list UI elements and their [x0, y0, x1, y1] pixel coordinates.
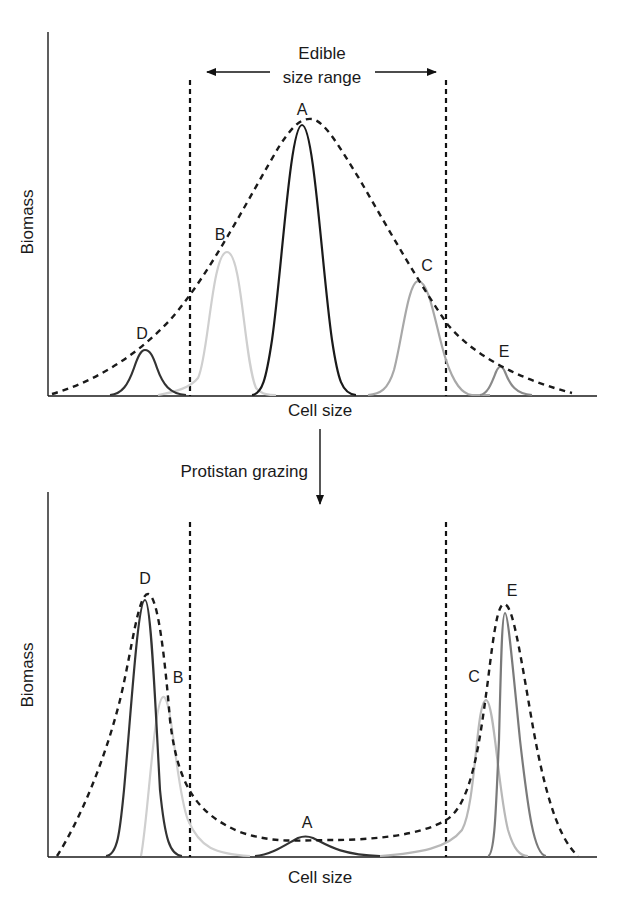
grazing-diagram: Biomass Cell size Edible size range A B … [0, 0, 622, 908]
bottom-x-axis-label: Cell size [288, 868, 352, 887]
bottom-peak-label-e: E [507, 582, 518, 599]
top-curve-d [110, 350, 186, 395]
bottom-peak-label-d: D [139, 570, 151, 587]
bottom-panel: Biomass Cell size D B A C E [18, 492, 597, 887]
transition: Protistan grazing [180, 429, 320, 504]
edible-range-label-line2: size range [283, 68, 361, 87]
bottom-peak-label-c: C [468, 668, 480, 685]
bottom-peak-label-a: A [302, 814, 313, 831]
top-peak-label-a: A [297, 101, 308, 118]
top-peak-label-c: C [421, 257, 433, 274]
top-peak-label-d: D [136, 325, 148, 342]
top-peak-label-e: E [499, 343, 510, 360]
bottom-peak-label-b: B [173, 669, 184, 686]
protistan-grazing-label: Protistan grazing [180, 462, 308, 481]
bottom-y-axis-label: Biomass [18, 642, 37, 707]
bottom-curve-c [380, 700, 528, 856]
top-curve-b [158, 252, 276, 395]
top-peak-label-b: B [215, 226, 226, 243]
bottom-curve-e [488, 613, 546, 856]
top-x-axis-label: Cell size [288, 401, 352, 420]
top-curve-e [480, 367, 532, 395]
edible-range-label-line1: Edible [298, 44, 345, 63]
bottom-curve-d [106, 600, 182, 856]
top-y-axis-label: Biomass [18, 189, 37, 254]
top-panel: Biomass Cell size Edible size range A B … [18, 32, 597, 420]
